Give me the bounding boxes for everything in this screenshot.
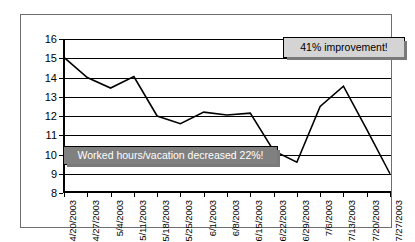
x-axis-tick <box>157 193 158 197</box>
chart-screenshot: 8910111213141516 4/20/20034/27/20035/4/2… <box>0 0 415 242</box>
annotation-worked-hours: Worked hours/vacation decreased 22%! <box>63 146 278 165</box>
x-axis-tick-label: 6/29/2003 <box>301 200 311 241</box>
x-axis-tick <box>320 193 321 197</box>
x-axis-tick <box>87 193 88 197</box>
x-axis-tick-label: 5/11/2003 <box>138 200 148 241</box>
x-axis-tick <box>343 193 344 197</box>
x-axis-tick <box>180 193 181 197</box>
chart-frame: 8910111213141516 4/20/20034/27/20035/4/2… <box>20 14 392 228</box>
x-axis-tick-label: 4/27/2003 <box>91 200 101 241</box>
y-axis-tick-label: 13 <box>45 91 57 102</box>
x-axis-tick-label: 6/1/2003 <box>208 200 218 236</box>
x-axis-tick-label: 7/27/2003 <box>394 200 404 241</box>
x-axis-tick-label: 5/4/2003 <box>115 200 125 236</box>
x-axis-tick <box>250 193 251 197</box>
y-axis-tick-label: 10 <box>45 149 57 160</box>
x-axis-tick <box>297 193 298 197</box>
x-axis-tick <box>204 193 205 197</box>
x-axis-tick <box>111 193 112 197</box>
y-axis-tick-label: 12 <box>45 111 57 122</box>
annotation-shadow-bottom <box>67 164 280 167</box>
y-axis-tick-label: 9 <box>51 168 57 179</box>
x-axis-tick <box>274 193 275 197</box>
annotation-shadow-bottom <box>287 57 407 60</box>
y-axis-tick-label: 11 <box>46 130 57 141</box>
y-axis-tick-label: 14 <box>45 72 57 83</box>
x-axis-tick-label: 6/22/2003 <box>278 200 288 241</box>
x-axis-tick-label: 7/6/2003 <box>324 200 334 236</box>
x-axis-tick-label: 6/15/2003 <box>254 200 264 241</box>
x-axis-tick-label: 7/20/2003 <box>371 200 381 241</box>
x-axis-tick-label: 6/8/2003 <box>231 200 241 236</box>
y-axis-tick-label: 16 <box>45 34 57 45</box>
x-axis-tick <box>134 193 135 197</box>
x-axis-tick-label: 5/25/2003 <box>184 200 194 241</box>
x-axis-tick <box>367 193 368 197</box>
plot-area: 8910111213141516 4/20/20034/27/20035/4/2… <box>63 39 391 193</box>
x-axis-tick <box>64 193 65 197</box>
annotation-worked-hours-text: Worked hours/vacation decreased 22%! <box>78 150 264 161</box>
annotation-improvement: 41% improvement! <box>283 37 405 58</box>
y-axis-tick-label: 8 <box>51 188 57 199</box>
x-axis-tick-label: 4/20/2003 <box>68 200 78 241</box>
x-axis-tick <box>227 193 228 197</box>
x-axis-tick <box>390 193 391 197</box>
data-series-line <box>63 39 391 193</box>
y-axis-tick <box>59 193 63 194</box>
annotation-improvement-text: 41% improvement! <box>300 42 388 53</box>
x-axis-tick-label: 7/13/2003 <box>347 200 357 241</box>
y-axis-tick-label: 15 <box>45 53 57 64</box>
x-axis-tick-label: 5/18/2003 <box>161 200 171 241</box>
